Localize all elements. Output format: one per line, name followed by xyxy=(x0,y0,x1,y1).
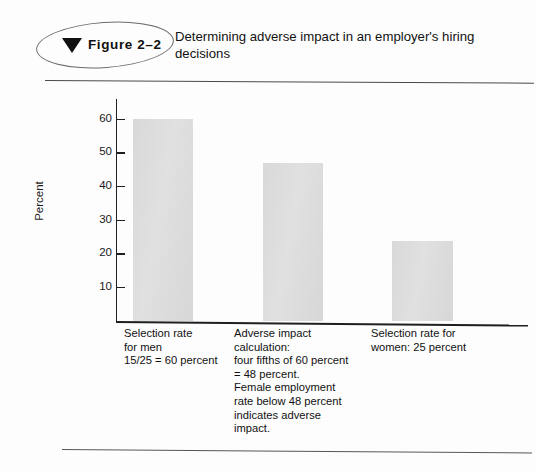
y-axis-tick xyxy=(117,287,125,288)
y-axis-tick-label-row: 40 xyxy=(86,179,112,193)
y-axis-tick-label-row: 30 xyxy=(86,213,112,227)
y-axis-tick-label-row: 10 xyxy=(86,280,112,294)
bar-selection-rate-men xyxy=(133,119,193,321)
y-axis-tick-label-row: 50 xyxy=(86,145,112,159)
bar-caption: Adverse impact calculation: four fifths … xyxy=(234,327,366,436)
bar-selection-rate-women xyxy=(392,241,453,322)
x-axis-line xyxy=(116,321,528,326)
y-axis-tick xyxy=(117,253,125,254)
y-axis-line xyxy=(116,99,117,323)
y-axis-tick-label: 20 xyxy=(99,246,112,258)
bar-chart: 60 50 40 30 20 10 Percent Selection rate… xyxy=(0,0,537,472)
bar-adverse-impact-calculation xyxy=(263,163,323,321)
y-axis-tick xyxy=(117,220,125,221)
bar-fill xyxy=(392,241,453,322)
bar-caption: Selection rate for men 15/25 = 60 percen… xyxy=(124,327,242,368)
y-axis-tick xyxy=(117,119,125,120)
y-axis-tick-label: 40 xyxy=(99,179,112,191)
bar-caption: Selection rate for women: 25 percent xyxy=(371,327,501,354)
y-axis-tick xyxy=(117,152,125,153)
y-axis-tick-label: 50 xyxy=(99,145,112,157)
y-axis-tick-label-row: 60 xyxy=(86,112,112,126)
y-axis-tick-label: 30 xyxy=(99,213,112,225)
y-axis-tick-label-row: 20 xyxy=(86,246,112,260)
figure-page: Figure 2–2 Determining adverse impact in… xyxy=(0,0,537,472)
y-axis-title: Percent xyxy=(33,156,45,246)
y-axis-tick-label: 60 xyxy=(99,112,112,124)
bar-fill xyxy=(263,163,323,321)
bar-fill xyxy=(133,119,193,321)
y-axis-tick-label: 10 xyxy=(99,280,112,292)
y-axis-tick xyxy=(117,186,125,187)
